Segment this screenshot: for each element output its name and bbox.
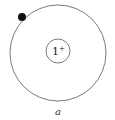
- nucleus-label: 1+: [52, 45, 65, 58]
- figure-caption: a: [55, 106, 61, 117]
- nucleus-charge: +: [59, 45, 65, 53]
- electron-dot: [18, 13, 26, 21]
- atom-diagram: 1+ a: [0, 0, 115, 120]
- nucleus-number: 1: [52, 45, 59, 58]
